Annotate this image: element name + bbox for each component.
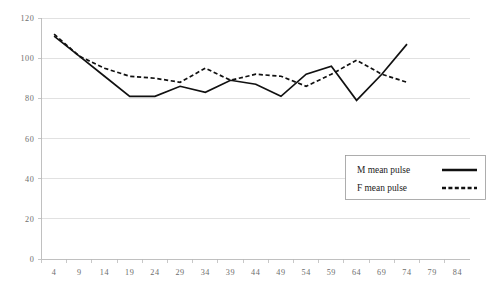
y-tick-label: 40 [25,175,34,184]
y-tick-label: 0 [30,255,35,264]
y-axis-tick-labels: 020406080100120 [20,14,34,264]
x-tick-label: 74 [402,268,411,277]
x-tick-label: 39 [226,268,235,277]
x-tick-label: 19 [125,268,134,277]
y-tick-label: 20 [25,215,34,224]
x-tick-label: 49 [276,268,285,277]
chart-container: 020406080100120 491419242934394449545964… [0,0,494,294]
x-tick-label: 44 [251,268,260,277]
x-tick-label: 14 [100,268,109,277]
x-tick-label: 59 [327,268,336,277]
x-tick-label: 34 [201,268,210,277]
y-tick-label: 100 [20,54,34,63]
x-tick-label: 54 [301,268,310,277]
x-tick-label: 84 [453,268,462,277]
tick-marks [38,18,445,263]
x-tick-label: 79 [427,268,436,277]
y-tick-label: 80 [25,94,34,103]
x-tick-label: 64 [352,268,361,277]
legend-label-f-mean-pulse: F mean pulse [357,183,407,193]
x-tick-label: 24 [150,268,159,277]
x-tick-label: 9 [77,268,82,277]
x-axis-tick-labels: 49141924293439444954596469747984 [52,268,462,277]
x-tick-label: 29 [175,268,184,277]
x-tick-label: 69 [377,268,386,277]
y-tick-label: 60 [25,135,34,144]
legend-label-m-mean-pulse: M mean pulse [357,165,410,175]
x-tick-label: 4 [52,268,57,277]
mean-pulse-line-chart: 020406080100120 491419242934394449545964… [0,0,494,294]
y-tick-label: 120 [20,14,34,23]
legend: M mean pulse F mean pulse [346,156,486,200]
